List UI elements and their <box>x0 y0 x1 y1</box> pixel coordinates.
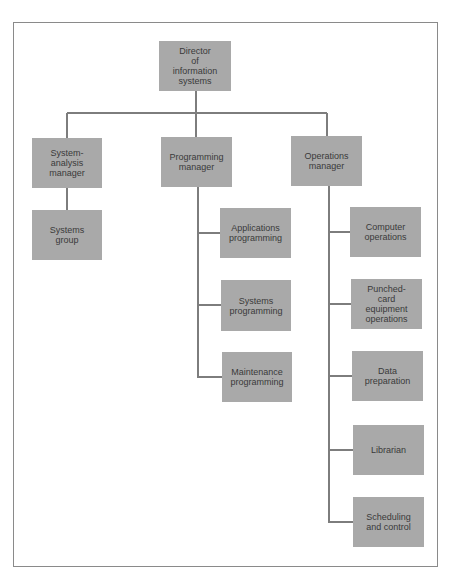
node-data-preparation: Data preparation <box>352 351 423 401</box>
node-librarian: Librarian <box>353 425 424 475</box>
node-applications-programming: Applications programming <box>220 208 291 258</box>
node-computer-operations: Computer operations <box>350 207 421 257</box>
node-programming-manager: Programming manager <box>161 137 232 187</box>
node-punched-card-equipment-operations: Punched- card equipment operations <box>351 279 422 329</box>
node-systems-programming: Systems programming <box>221 280 291 331</box>
node-system-analysis-manager: System- analysis manager <box>32 138 102 188</box>
node-maintenance-programming: Maintenance programming <box>222 352 292 402</box>
node-operations-manager: Operations manager <box>291 136 362 186</box>
node-director: Director of information systems <box>159 41 231 91</box>
node-systems-group: Systems group <box>32 210 102 260</box>
node-scheduling-and-control: Scheduling and control <box>353 497 424 547</box>
